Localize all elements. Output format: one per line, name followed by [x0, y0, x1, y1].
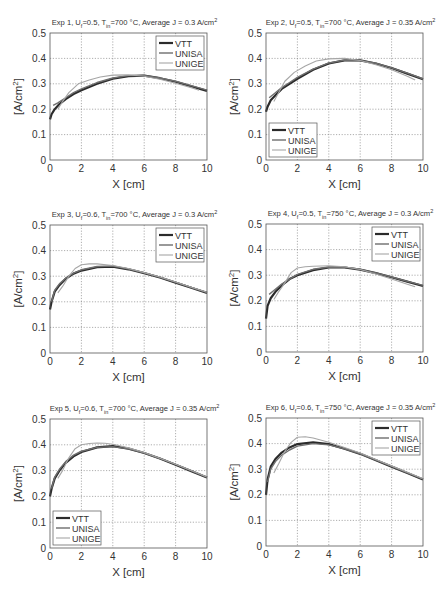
chart-title: Exp 3, Uf=0.6, Tin=700 °C, Average J = 0… [52, 209, 218, 221]
x-tick-label: 6 [357, 163, 363, 174]
x-tick-label: 8 [173, 551, 179, 562]
chart-title-part: Exp 3, U [52, 210, 81, 219]
x-tick-label: 0 [263, 355, 269, 366]
y-axis-label: [A/cm2] [227, 269, 241, 306]
x-tick-label: 2 [79, 163, 85, 174]
y-label-part: [A/cm [12, 278, 24, 307]
legend: VTTUNISAUNIGE [269, 123, 317, 157]
legend: VTTUNISAUNIGE [372, 227, 420, 261]
y-label-part: [A/cm [12, 86, 24, 115]
x-axis-label: X [cm] [112, 371, 145, 383]
figure: 024681000.10.20.30.40.5VTTUNISAUNIGEExp … [0, 0, 447, 589]
y-tick-label: 0.2 [248, 104, 262, 115]
legend-label-unige: UNIGE [72, 534, 101, 544]
chart-title: Exp 2, Uf=0.5, Tin=700 °C, Average J = 0… [266, 17, 436, 29]
legend-label-unisa: UNISA [72, 524, 100, 534]
chart-title-part: =750 °C, Average J = 0.3 A/cm [326, 209, 430, 218]
x-axis-label: X [cm] [112, 178, 145, 190]
y-label-part: ] [12, 465, 24, 468]
chart-title-part: =700 °C, Average J = 0.35 A/cm [324, 18, 432, 27]
legend-label-unisa: UNISA [288, 136, 316, 146]
legend-label-unisa: UNISA [391, 240, 419, 250]
chart-title-part: =700 °C, Average J = 0.35 A/cm [108, 404, 216, 413]
y-tick-label: 0 [40, 155, 46, 166]
y-label-part: ] [12, 270, 24, 273]
x-tick-label: 2 [79, 356, 85, 367]
legend-label-vtt: VTT [288, 126, 306, 136]
y-label-part: [A/cm [12, 473, 24, 502]
chart-panel-1: 024681000.10.20.30.40.5VTTUNISAUNIGEExp … [11, 17, 218, 190]
y-label-part: ] [228, 463, 240, 466]
y-tick-label: 0.4 [32, 245, 46, 256]
x-tick-label: 8 [389, 355, 395, 366]
x-tick-label: 10 [201, 356, 213, 367]
x-axis-label: X [cm] [328, 564, 361, 576]
chart-title-part: Exp 1, U [52, 18, 81, 27]
y-axis-label: [A/cm2] [11, 465, 25, 502]
legend-label-unige: UNIGE [391, 444, 420, 454]
x-tick-label: 6 [357, 355, 363, 366]
x-tick-label: 8 [389, 549, 395, 560]
x-tick-label: 4 [326, 355, 332, 366]
y-tick-label: 0.5 [32, 414, 46, 425]
y-tick-label: 0.3 [32, 271, 46, 282]
x-tick-label: 4 [110, 356, 116, 367]
y-tick-label: 0 [256, 347, 262, 358]
y-tick-label: 0.4 [32, 53, 46, 64]
x-tick-label: 0 [47, 163, 53, 174]
y-tick-label: 0.2 [32, 296, 46, 307]
y-tick-label: 0.1 [248, 321, 262, 332]
chart-title-part: Exp 4, U [268, 209, 297, 218]
chart-title: Exp 6, Uf=0.6, Tin=750 °C, Average J = 0… [266, 402, 436, 414]
x-tick-label: 2 [295, 549, 301, 560]
y-axis-label: [A/cm2] [11, 270, 25, 307]
chart-title-part: 2 [216, 403, 219, 409]
chart-title-part: =0.5, T [298, 209, 322, 218]
x-tick-label: 8 [173, 356, 179, 367]
y-tick-label: 0 [256, 155, 262, 166]
legend-label-unige: UNIGE [288, 146, 317, 156]
y-tick-label: 0.2 [248, 295, 262, 306]
chart-title-part: =700 °C, Average J = 0.3 A/cm [110, 210, 214, 219]
x-axis-label: X [cm] [112, 566, 145, 578]
x-tick-label: 6 [141, 163, 147, 174]
chart-title-part: Exp 5, U [50, 404, 79, 413]
x-tick-label: 4 [110, 163, 116, 174]
legend: VTTUNISAUNIGE [53, 511, 101, 545]
chart-title-part: =750 °C, Average J = 0.35 A/cm [324, 403, 432, 412]
legend-label-unisa: UNISA [391, 434, 419, 444]
legend-label-unige: UNIGE [175, 59, 204, 69]
chart-panel-2: 024681000.10.20.30.40.5VTTUNISAUNIGEExp … [227, 17, 436, 190]
x-tick-label: 4 [326, 163, 332, 174]
y-tick-label: 0.5 [32, 220, 46, 231]
chart-title: Exp 5, Uf=0.6, Tin=700 °C, Average J = 0… [50, 403, 220, 415]
y-label-part: [A/cm [228, 86, 240, 115]
y-tick-label: 0.4 [32, 439, 46, 450]
chart-panel-4: 024681000.10.20.30.40.5VTTUNISAUNIGEExp … [227, 208, 434, 382]
chart-panel-5: 024681000.10.20.30.40.5VTTUNISAUNIGEExp … [11, 403, 220, 578]
chart-title-part: =700 °C, Average J = 0.3 A/cm [110, 18, 214, 27]
y-tick-label: 0.3 [248, 78, 262, 89]
y-tick-label: 0.4 [248, 438, 262, 449]
y-tick-label: 0.1 [32, 517, 46, 528]
x-tick-label: 4 [326, 549, 332, 560]
y-tick-label: 0.1 [32, 129, 46, 140]
legend-label-vtt: VTT [391, 424, 409, 434]
y-tick-label: 0.3 [248, 270, 262, 281]
x-tick-label: 2 [295, 355, 301, 366]
y-tick-label: 0 [40, 543, 46, 554]
x-tick-label: 2 [295, 163, 301, 174]
chart-title: Exp 4, Uf=0.5, Tin=750 °C, Average J = 0… [268, 208, 434, 220]
x-tick-label: 0 [47, 356, 53, 367]
chart-title-part: =0.6, T [296, 403, 320, 412]
chart-title-part: =0.5, T [82, 18, 106, 27]
legend-label-vtt: VTT [175, 39, 193, 49]
y-tick-label: 0.3 [32, 465, 46, 476]
legend-label-vtt: VTT [72, 514, 90, 524]
y-axis-label: [A/cm2] [11, 78, 25, 115]
x-tick-label: 0 [47, 551, 53, 562]
chart-title-part: Exp 2, U [266, 18, 295, 27]
legend: VTTUNISAUNIGE [156, 36, 204, 70]
x-tick-label: 10 [417, 163, 429, 174]
legend-label-unisa: UNISA [175, 241, 203, 251]
